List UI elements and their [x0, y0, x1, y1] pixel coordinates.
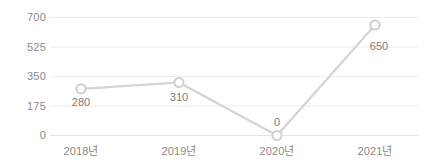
data-point-2018[interactable]: [76, 84, 85, 93]
gridlines: [50, 18, 418, 136]
x-tick-label-2018: 2018년: [64, 145, 99, 157]
series-polyline: [81, 25, 375, 136]
x-tick-label-2021: 2021년: [358, 145, 393, 157]
data-point-2019[interactable]: [174, 78, 183, 87]
y-tick-label-525: 525: [0, 42, 46, 53]
x-tick-label-2019: 2019년: [162, 145, 197, 157]
x-tick-label-2020: 2020년: [260, 145, 295, 157]
y-tick-label-0: 0: [0, 130, 46, 141]
data-point-markers: [76, 20, 379, 140]
data-label-2020: 0: [274, 117, 280, 128]
data-point-2020[interactable]: [272, 131, 281, 140]
data-label-2018: 280: [72, 97, 90, 108]
data-point-2021[interactable]: [370, 20, 379, 29]
data-label-2019: 310: [170, 92, 188, 103]
y-tick-label-175: 175: [0, 101, 46, 112]
line-chart: 700 525 350 175 0 2018년 2019년 2020년 2021…: [0, 0, 424, 168]
chart-plot-area: [0, 0, 424, 168]
y-tick-label-700: 700: [0, 12, 46, 23]
y-axis: 700 525 350 175 0: [0, 0, 46, 168]
data-series-line: [81, 25, 375, 136]
y-tick-label-350: 350: [0, 71, 46, 82]
data-label-2021: 650: [370, 41, 388, 52]
